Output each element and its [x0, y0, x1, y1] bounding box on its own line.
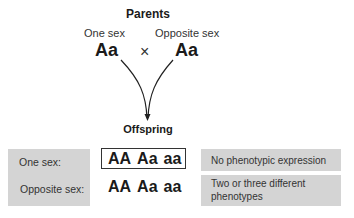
row-label-one-sex: One sex:: [19, 156, 61, 168]
offspring-genotypes-one-sex: AAAaaa: [108, 150, 187, 168]
genotype: Aa: [137, 150, 157, 168]
offspring-title: Offspring: [0, 123, 296, 135]
genotype: AA: [108, 150, 131, 168]
result-text-opposite-sex: Two or three different phenotypes: [211, 177, 336, 203]
genotype: AA: [108, 178, 131, 196]
right-curve-line: [148, 60, 173, 118]
left-curve-line: [121, 60, 147, 118]
arrowhead-icon: [145, 114, 151, 121]
result-text-one-sex: No phenotypic expression: [211, 155, 326, 166]
offspring-genotypes-opposite-sex: AAAaaa: [108, 178, 187, 196]
genotype: aa: [164, 150, 182, 168]
genotype: aa: [164, 178, 182, 196]
row-label-opposite-sex: Opposite sex:: [20, 183, 84, 195]
genotype: Aa: [137, 178, 157, 196]
